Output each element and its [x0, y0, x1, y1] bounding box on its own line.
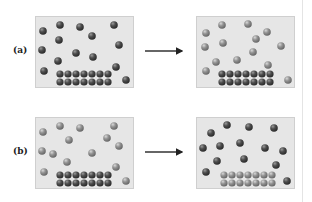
particle-diagram [0, 0, 312, 202]
lattice-b-after [220, 171, 275, 186]
lattice-a-after [218, 70, 273, 85]
lattice-b-before [56, 171, 111, 186]
lattice-a-before [56, 70, 111, 85]
